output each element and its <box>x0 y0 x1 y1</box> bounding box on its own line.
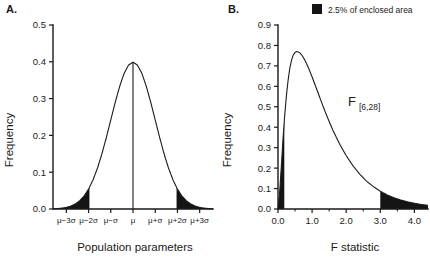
x-tick-label: μ−σ <box>104 216 118 225</box>
x-tick-label: μ+3σ <box>190 216 209 225</box>
panel-b-y-axis-title: Frequency <box>221 113 233 168</box>
panel-a-x-axis-title: Population parameters <box>77 241 193 253</box>
y-tick-label: 0.2 <box>258 163 271 174</box>
panel-b-f-annotation: F <box>348 94 356 109</box>
x-tick-label: 2.0 <box>340 215 353 226</box>
y-tick-label: 0.1 <box>33 167 46 178</box>
legend-swatch-icon <box>312 4 322 14</box>
x-tick-label: 1.0 <box>305 215 318 226</box>
y-tick-label: 0.6 <box>258 81 271 92</box>
x-tick-label: μ <box>131 216 136 225</box>
y-tick-label: 0.4 <box>33 56 46 67</box>
panel-a-x-tick-labels: μ−3σμ−2σμ−σμμ+σμ+2σμ+3σ <box>57 216 209 225</box>
y-tick-label: 0.3 <box>258 142 271 153</box>
y-tick-label: 0.5 <box>258 101 271 112</box>
y-tick-label: 0.4 <box>258 122 271 133</box>
x-tick-label: μ−2σ <box>79 216 98 225</box>
x-tick-label: 0.0 <box>271 215 284 226</box>
y-tick-label: 0.1 <box>258 183 271 194</box>
panel-b-x-axis-title: F statistic <box>331 241 380 253</box>
panel-b-f-annotation-subscript: [6,28] <box>359 102 380 112</box>
x-tick-label: 3.0 <box>374 215 387 226</box>
y-tick-label: 0.3 <box>33 93 46 104</box>
legend-label: 2.5% of enclosed area <box>328 5 413 15</box>
x-tick-label: 4.0 <box>408 215 421 226</box>
legend: 2.5% of enclosed area <box>312 4 413 15</box>
panel-a-y-axis-title: Frequency <box>3 113 15 168</box>
y-tick-label: 0.9 <box>258 19 271 30</box>
y-tick-label: 0.5 <box>33 19 46 30</box>
x-tick-label: μ−3σ <box>57 216 76 225</box>
y-tick-label: 0.7 <box>258 60 271 71</box>
panel-b-label: B. <box>228 3 239 15</box>
panel-a-label: A. <box>6 3 17 15</box>
y-tick-label: 0.0 <box>258 203 271 214</box>
statistical-distributions-figure: A. Frequency 0.00.10.20.30.40.5 μ−3σμ−2σ… <box>0 0 430 257</box>
y-tick-label: 0.2 <box>33 130 46 141</box>
x-tick-label: μ+2σ <box>168 216 187 225</box>
y-tick-label: 0.8 <box>258 40 271 51</box>
y-tick-label: 0.0 <box>33 203 46 214</box>
x-tick-label: μ+σ <box>148 216 162 225</box>
